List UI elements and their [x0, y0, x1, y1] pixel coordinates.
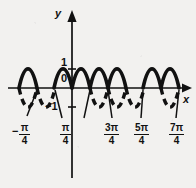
- x-tick-minus-pi-over-4-numerator: π: [20, 123, 30, 134]
- x-axis-arrowhead: [182, 84, 192, 93]
- y-tick-label-minus-one: −1: [45, 101, 58, 112]
- dashed-hump-6: [161, 88, 179, 107]
- solid-hump-3: [90, 69, 108, 88]
- dashed-hump-3: [90, 88, 108, 107]
- y-axis-label: y: [55, 8, 61, 19]
- x-tick-pi-over-4: π 4: [60, 123, 71, 146]
- y-axis-arrowhead: [67, 10, 76, 22]
- x-tick-five-pi-over-4: 5π 4: [134, 123, 149, 146]
- leader-minus-pi-4: [27, 90, 37, 116]
- x-tick-seven-pi-over-4-denominator: 4: [173, 136, 181, 147]
- solid-hump-group: [19, 69, 179, 88]
- y-tick-label-one: 1: [61, 57, 67, 68]
- solid-hump-4: [108, 69, 126, 88]
- x-tick-three-pi-over-4: 3π 4: [104, 123, 119, 146]
- x-tick-three-pi-over-4-denominator: 4: [108, 136, 116, 147]
- x-tick-minus-pi-over-4-sign: −: [12, 126, 18, 138]
- solid-hump-2b: [72, 69, 90, 88]
- solid-hump-5: [143, 69, 161, 88]
- x-tick-seven-pi-over-4: 7π 4: [169, 123, 184, 146]
- origin-label: 0: [61, 73, 67, 84]
- leader-pi-4-alt: [84, 90, 90, 118]
- x-tick-pi-over-4-denominator: 4: [62, 136, 70, 147]
- x-tick-seven-pi-over-4-numerator: 7π: [169, 123, 184, 134]
- dashed-hump-group: [19, 88, 179, 107]
- x-tick-three-pi-over-4-numerator: 3π: [104, 123, 119, 134]
- graph-figure: y x 1 0 −1 − π 4 π 4 3π 4 5π 4 7π 4: [0, 0, 196, 188]
- x-tick-minus-pi-over-4: − π 4: [19, 123, 30, 146]
- x-tick-pi-over-4-numerator: π: [61, 123, 71, 134]
- solid-hump-1: [19, 69, 37, 88]
- solid-hump-6: [161, 69, 179, 88]
- x-tick-five-pi-over-4-denominator: 4: [138, 136, 146, 147]
- coordinate-plot-svg: [0, 0, 196, 188]
- x-axis-label: x: [183, 94, 189, 105]
- x-tick-five-pi-over-4-numerator: 5π: [134, 123, 149, 134]
- x-tick-minus-pi-over-4-denominator: 4: [21, 136, 29, 147]
